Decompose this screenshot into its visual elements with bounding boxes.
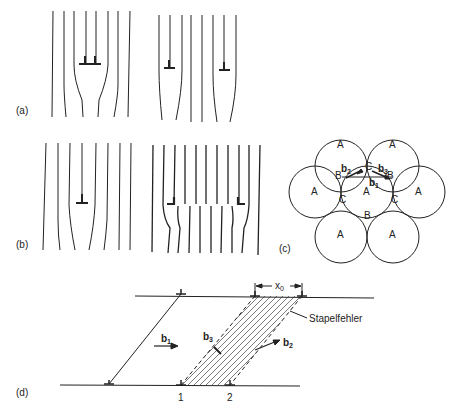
panel-b-label: (b) xyxy=(16,239,28,250)
stacking-fault-hatching xyxy=(140,285,354,385)
vector-b2-label: b2 xyxy=(341,163,351,175)
panel-a-right-lattice xyxy=(159,15,236,122)
site-label-c: C xyxy=(339,194,346,205)
panel-b-left-lattice xyxy=(43,143,131,250)
panel-b-right-lattice xyxy=(152,145,260,255)
atom-label: A xyxy=(337,139,344,150)
site-label-c: C xyxy=(391,194,398,205)
panel-d-label: (d) xyxy=(16,387,28,398)
stacking-fault-label: Stapelfehler xyxy=(309,313,363,324)
partial-1-label: 1 xyxy=(178,392,184,403)
vector-b1-label: b1 xyxy=(161,333,171,345)
atom-label: A xyxy=(415,186,422,197)
atom-label: A xyxy=(389,229,396,240)
atom-label: A xyxy=(311,186,318,197)
panel-d-dissociation xyxy=(60,283,374,386)
site-label-b: B xyxy=(364,210,371,221)
panel-c-sphere-packing xyxy=(289,140,445,263)
vector-b1-label: b1 xyxy=(369,177,379,189)
vector-b3-label: b3 xyxy=(203,331,213,343)
vector-b2-label: b2 xyxy=(283,337,293,349)
vector-b3-label: b3 xyxy=(378,163,388,175)
panel-c-label: (c) xyxy=(279,243,291,254)
x0-label: x0 xyxy=(275,280,284,292)
site-label-b: B xyxy=(387,170,394,181)
atom-label: A xyxy=(337,229,344,240)
panel-a-left-lattice xyxy=(52,11,130,117)
dislocation-diagram: (a) (b) (c) (d) A A A A A A A B C C B C … xyxy=(0,0,455,407)
panel-a-label: (a) xyxy=(16,105,28,116)
partial-2-label: 2 xyxy=(227,392,233,403)
site-label-c: C xyxy=(365,161,372,172)
atom-label: A xyxy=(389,139,396,150)
